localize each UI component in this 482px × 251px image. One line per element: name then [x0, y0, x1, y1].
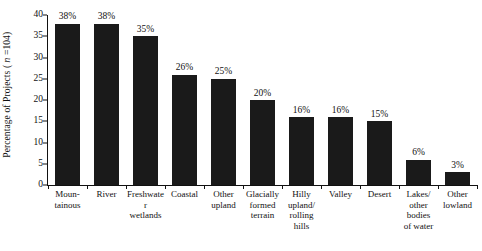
x-axis-category-label-line: Lakes/ [399, 189, 438, 200]
y-axis-tickmark [43, 121, 47, 122]
y-axis-tickmark [43, 185, 47, 186]
y-axis-tickmark [43, 78, 47, 79]
x-axis-category-label-line: Valley [321, 189, 360, 200]
bar-group: 3% [438, 8, 477, 185]
x-axis-category-label-line: terrain [243, 210, 282, 221]
plot-area: 4035302520151050 38%38%35%26%25%20%16%16… [47, 8, 477, 186]
x-axis-category-label: Lakes/otherbodiesof water [399, 189, 438, 231]
x-axis-tickmark [477, 185, 478, 189]
x-axis-category-label: River [87, 189, 126, 200]
bar-value-label: 38% [98, 12, 115, 22]
bar [55, 24, 80, 186]
y-axis-tickmark [43, 15, 47, 16]
x-axis-category-label: Glaciallyformedterrain [243, 189, 282, 221]
x-axis-category-label-line: lowland [438, 200, 477, 211]
x-axis-category-label-line: formed [243, 200, 282, 211]
bar-value-label: 15% [371, 110, 388, 120]
x-axis-category-label-line: bodies [399, 210, 438, 221]
x-axis-category-label-line: Coastal [165, 189, 204, 200]
bar-group: 6% [399, 8, 438, 185]
y-axis-tickmark [43, 57, 47, 58]
bar-group: 16% [321, 8, 360, 185]
x-axis-category-label-line: Other [438, 189, 477, 200]
bar [328, 117, 353, 185]
bar [250, 100, 275, 185]
y-axis-tickmark [43, 100, 47, 101]
y-axis-title-suffix: =104) [2, 32, 12, 58]
x-axis-category-label: Otherupland [204, 189, 243, 210]
x-axis-line [47, 185, 477, 186]
x-axis-category-label-line: hills [282, 221, 321, 232]
x-axis-category-label-line: Hilly [282, 189, 321, 200]
bar-value-label: 16% [293, 106, 310, 116]
bar-chart-figure: Percentage of Projects ( n =104) 4035302… [0, 0, 482, 251]
x-axis-category-label-line: River [87, 189, 126, 200]
x-axis-category-label: Hillyupland/rollinghills [282, 189, 321, 231]
bar [211, 79, 236, 185]
bar-value-label: 35% [137, 25, 154, 35]
x-axis-labels: Moun-tainousRiverFreshwaterwetlandsCoast… [48, 189, 477, 249]
x-axis-category-label-line: Glacially [243, 189, 282, 200]
x-axis-category-label: Freshwaterwetlands [126, 189, 165, 221]
x-axis-category-label-line: wetlands [126, 210, 165, 221]
bar-group: 25% [204, 8, 243, 185]
y-axis-title-italic-n: n [2, 58, 12, 63]
x-axis-category-label: Desert [360, 189, 399, 200]
x-axis-category-label-line: Other [204, 189, 243, 200]
y-axis-tickmark [43, 36, 47, 37]
x-axis-category-label-line: upland/ [282, 200, 321, 211]
bar [289, 117, 314, 185]
x-axis-category-label-line: Freshwater [126, 189, 165, 210]
bar-value-label: 3% [451, 161, 464, 171]
x-axis-category-label-line: other [399, 200, 438, 211]
bars-group: 38%38%35%26%25%20%16%16%15%6%3% [48, 8, 477, 185]
bar-group: 15% [360, 8, 399, 185]
bar [445, 172, 470, 185]
bar-group: 26% [165, 8, 204, 185]
y-axis-title-prefix: Percentage of Projects ( [2, 63, 12, 158]
bar-group: 16% [282, 8, 321, 185]
bar-value-label: 16% [332, 106, 349, 116]
y-axis-tickmark [43, 142, 47, 143]
x-axis-category-label: Moun-tainous [48, 189, 87, 210]
bar-group: 38% [87, 8, 126, 185]
bar [406, 160, 431, 186]
y-axis-title: Percentage of Projects ( n =104) [0, 0, 16, 190]
y-axis-tickmark [43, 163, 47, 164]
bar-value-label: 26% [176, 63, 193, 73]
bar-value-label: 25% [215, 67, 232, 77]
x-axis-category-label: Valley [321, 189, 360, 200]
bar [172, 75, 197, 186]
bar [133, 36, 158, 185]
bar-value-label: 38% [59, 12, 76, 22]
bar [94, 24, 119, 186]
x-axis-category-label-line: rolling [282, 210, 321, 221]
x-axis-category-label-line: tainous [48, 200, 87, 211]
bar-group: 20% [243, 8, 282, 185]
bar [367, 121, 392, 185]
x-axis-category-label: Coastal [165, 189, 204, 200]
x-axis-category-label-line: upland [204, 200, 243, 211]
bar-group: 38% [48, 8, 87, 185]
x-axis-category-label-line: of water [399, 221, 438, 232]
x-axis-category-label-line: Moun- [48, 189, 87, 200]
bar-value-label: 6% [412, 148, 425, 158]
bar-value-label: 20% [254, 89, 271, 99]
x-axis-category-label-line: Desert [360, 189, 399, 200]
x-axis-category-label: Otherlowland [438, 189, 477, 210]
bar-group: 35% [126, 8, 165, 185]
